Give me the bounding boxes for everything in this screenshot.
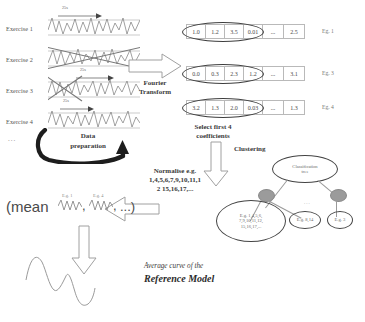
mean-expression-comma-2: ,: [113, 198, 117, 213]
normalise-label-3: 2 15,16,17,...: [139, 186, 211, 193]
exercise-list-ellipsis: ...: [8, 135, 16, 143]
coefficient-row-tag-1: Eg. 1: [322, 29, 334, 35]
coefficient-cell: 1.3: [206, 101, 225, 114]
tree-leaf-large-line-2: 7,9,10,11,12,: [239, 218, 263, 223]
fourier-transform-label-1: Fourier: [128, 80, 182, 87]
fourier-transform-label-2: Transform: [128, 89, 182, 96]
coefficient-cell: 0.01: [244, 25, 263, 38]
data-preparation-label-2: preparation: [56, 143, 120, 150]
tree-leaf-ellipsis: ...: [304, 200, 311, 205]
classification-tree-root-node: Classification tree: [272, 155, 338, 183]
coefficient-row-1: 1.0 1.2 3.5 0.01 ... 2.5: [186, 24, 305, 39]
select-coefficients-label-1: Select first 4: [176, 124, 250, 131]
reference-model-label-1: Average curve of the: [144, 263, 203, 271]
exercise-label-4: Exercise 4: [6, 119, 33, 126]
average-curve-waveform: [24, 246, 96, 312]
tree-root-text: Classification tree: [292, 164, 317, 175]
duration-marker-3: [74, 73, 114, 81]
reference-model-label-2: Reference Model: [144, 274, 214, 285]
normalise-label-2: 1,4,5,6,7,9,10,11,1: [139, 177, 211, 184]
tree-leaf-large-line-3: 15,16,17,...: [241, 224, 262, 229]
coefficient-row-tag-3: Eg. 4: [322, 105, 334, 111]
coefficient-row-2: 0.0 0.3 2.3 1.2 ... 3.1: [186, 66, 305, 81]
coefficient-cell: 2.5: [284, 25, 304, 38]
coefficient-row-3: 3.2 1.3 2.0 0.03 ... 1.3: [186, 100, 305, 115]
coefficient-cell: 1.3: [284, 101, 304, 114]
data-preparation-label-1: Data: [62, 133, 114, 140]
coefficient-cell: 0.03: [244, 101, 263, 114]
duration-label-4: 25s: [63, 99, 69, 103]
coefficient-cell-ellipsis: ...: [263, 101, 284, 114]
tree-leaf-small-1-text: E.g. 8,14: [297, 217, 314, 222]
tree-root-line-1: Classification: [292, 164, 317, 169]
exercise-label-2: Exercise 2: [6, 57, 33, 64]
tree-leaf-small-2-text: E.g. 3: [335, 217, 346, 222]
duration-marker-4: [58, 104, 94, 112]
coefficient-cell: 1.2: [206, 25, 225, 38]
normalise-label-1: Normalise e.g.: [139, 168, 211, 175]
clustering-label: Clustering: [234, 146, 266, 153]
exercise-label-3: Exercise 3: [6, 88, 33, 95]
coefficient-cell: 1.0: [187, 25, 206, 38]
tree-leaf-cluster-small-1: E.g. 8,14: [289, 211, 321, 229]
coefficient-cell: 0.3: [206, 67, 225, 80]
mean-expression-tail: ...): [120, 199, 135, 214]
figure-canvas: Exercise 1 Exercise 2 Exercise 3 Exercis…: [0, 0, 365, 322]
coefficient-row-tag-2: Eg. 3: [322, 71, 334, 77]
duration-label-1: 25s: [62, 6, 68, 10]
duration-marker-1: [56, 11, 102, 19]
coefficient-cell: 3.1: [284, 67, 304, 80]
coefficient-cell: 2.0: [225, 101, 244, 114]
tree-leaf-cluster-small-2: E.g. 3: [327, 211, 353, 229]
coefficient-cell: 3.5: [225, 25, 244, 38]
coefficient-cell: 2.3: [225, 67, 244, 80]
tree-root-line-2: tree: [302, 169, 309, 174]
select-coefficients-label-2: coefficients: [176, 133, 250, 140]
mean-expression-comma-1: ,: [82, 198, 86, 213]
tree-leaf-large-line-1: E.g. 1,4,5,6,: [240, 213, 262, 218]
waveform-exercise-2: [48, 43, 140, 71]
fourier-transform-arrow: [128, 53, 182, 79]
coefficient-cell-ellipsis: ...: [263, 67, 284, 80]
coefficient-cell: 3.2: [187, 101, 206, 114]
mean-expression-open: (mean: [6, 198, 49, 215]
mean-waveform-1: [58, 198, 82, 214]
mean-waveform-tag-2: E.g. 4: [93, 193, 103, 198]
tree-internal-node-right: [330, 189, 347, 202]
mean-waveform-2: [89, 198, 113, 214]
exercise-label-1: Exercise 1: [6, 26, 33, 33]
tree-leaf-cluster-large: E.g. 1,4,5,6, 7,9,10,11,12, 15,16,17,...: [216, 200, 286, 242]
coefficient-cell-ellipsis: ...: [263, 25, 284, 38]
mean-waveform-tag-1: E.g. 1: [62, 193, 72, 198]
duration-label-3: 25s: [80, 68, 86, 72]
coefficient-cell: 0.0: [187, 67, 206, 80]
tree-leaf-large-text: E.g. 1,4,5,6, 7,9,10,11,12, 15,16,17,...: [239, 213, 263, 229]
coefficient-cell: 1.2: [244, 67, 263, 80]
